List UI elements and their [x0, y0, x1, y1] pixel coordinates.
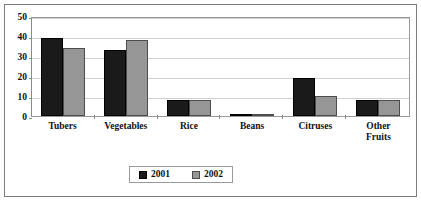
x-axis-labels: TubersVegetablesRiceBeansCitrusesOtherFr… [31, 121, 410, 143]
chart-legend: 20012002 [129, 166, 233, 183]
bar-2002-beans [252, 114, 274, 116]
y-axis-tick-label: 20 [18, 73, 28, 83]
bar-2001-vegetables [104, 50, 126, 116]
bar-2002-rice [189, 100, 211, 116]
plot-wrapper: 01020304050 [31, 17, 410, 117]
y-axis-tick-mark [29, 118, 32, 119]
bar-2002-other-fruits [378, 100, 400, 116]
bar-group [158, 18, 221, 116]
x-axis-label-citruses: Citruses [284, 121, 347, 143]
x-axis-label-line: Beans [221, 121, 284, 132]
x-axis-label-line: Fruits [347, 132, 410, 143]
y-axis-tick-label: 0 [22, 113, 27, 123]
bar-2001-tubers [41, 38, 63, 116]
legend-swatch-icon [139, 171, 147, 179]
bar-2002-vegetables [126, 40, 148, 116]
legend-entry-2002[interactable]: 2002 [192, 170, 223, 180]
bar-2002-citruses [315, 96, 337, 116]
x-axis-label-other-fruits: OtherFruits [347, 121, 410, 143]
y-axis-tick-label: 50 [18, 13, 28, 23]
x-axis-label-tubers: Tubers [31, 121, 94, 143]
bar-2001-beans [230, 114, 252, 116]
bar-group [32, 18, 95, 116]
x-axis-label-line: Other [347, 121, 410, 132]
x-axis-label-rice: Rice [157, 121, 220, 143]
bar-group [346, 18, 409, 116]
x-axis-label-line: Citruses [284, 121, 347, 132]
legend-entry-2001[interactable]: 2001 [139, 170, 170, 180]
x-axis-label-vegetables: Vegetables [94, 121, 157, 143]
bar-2001-rice [167, 100, 189, 116]
bar-group [283, 18, 346, 116]
legend-label: 2002 [204, 170, 223, 180]
x-axis-label-line: Vegetables [94, 121, 157, 132]
bar-2001-other-fruits [356, 100, 378, 116]
x-axis-label-line: Rice [157, 121, 220, 132]
bar-2001-citruses [293, 78, 315, 116]
bar-2002-tubers [63, 48, 85, 116]
y-axis-tick-label: 30 [18, 53, 28, 63]
chart-figure: 01020304050 TubersVegetablesRiceBeansCit… [0, 0, 421, 201]
y-axis-tick-label: 40 [18, 33, 28, 43]
bar-group [95, 18, 158, 116]
x-axis-label-line: Tubers [31, 121, 94, 132]
x-axis-label-beans: Beans [221, 121, 284, 143]
legend-label: 2001 [151, 170, 170, 180]
legend-swatch-icon [192, 171, 200, 179]
y-axis-tick-label: 10 [18, 93, 28, 103]
plot-area: 01020304050 [31, 17, 410, 117]
bars-layer [32, 18, 409, 116]
bar-group [220, 18, 283, 116]
